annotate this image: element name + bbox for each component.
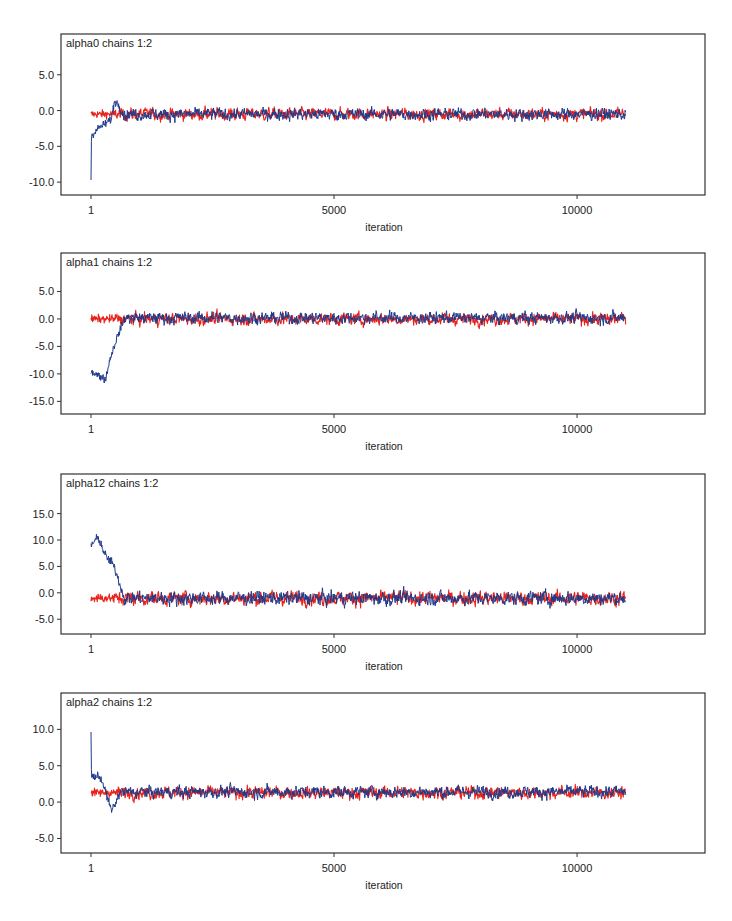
y-tick-label: 0.0 (39, 105, 54, 117)
x-tick-label: 1 (88, 862, 94, 874)
x-axis: 1500010000 (88, 853, 592, 874)
panel-title: alpha0 chains 1:2 (66, 37, 152, 49)
panel-title: alpha2 chains 1:2 (66, 696, 152, 708)
panel-alpha2: 10.05.00.0-5.0 1500010000 alpha2 chains … (33, 693, 705, 891)
x-tick-label: 1 (88, 204, 94, 216)
x-tick-label: 10000 (562, 204, 593, 216)
y-tick-label: 10.0 (33, 534, 54, 546)
panel-title: alpha12 chains 1:2 (66, 477, 158, 489)
x-tick-label: 10000 (562, 862, 593, 874)
x-axis-label: iteration (365, 221, 403, 233)
y-tick-label: -10.0 (29, 368, 54, 380)
y-tick-label: 0.0 (39, 796, 54, 808)
y-tick-label: -10.0 (29, 176, 54, 188)
y-tick-label: -5.0 (35, 140, 54, 152)
y-tick-label: -5.0 (35, 613, 54, 625)
y-tick-label: -15.0 (29, 395, 54, 407)
x-tick-label: 5000 (322, 643, 346, 655)
y-tick-label: 10.0 (33, 723, 54, 735)
plot-frame (61, 253, 705, 414)
x-axis: 1500010000 (88, 634, 592, 655)
y-axis: 5.00.0-5.0-10.0-15.0 (29, 285, 61, 407)
y-tick-label: -5.0 (35, 340, 54, 352)
x-axis-label: iteration (365, 879, 403, 891)
panel-title: alpha1 chains 1:2 (66, 256, 152, 268)
x-tick-label: 10000 (562, 643, 593, 655)
x-tick-label: 5000 (322, 204, 346, 216)
plot-frame (61, 693, 705, 853)
panel-alpha1: 5.00.0-5.0-10.0-15.0 1500010000 alpha1 c… (29, 253, 705, 452)
x-tick-label: 5000 (322, 862, 346, 874)
trace-plots-figure: 5.00.0-5.0-10.0 1500010000 alpha0 chains… (0, 0, 732, 921)
x-axis: 1500010000 (88, 414, 592, 435)
trace-plots-svg: 5.00.0-5.0-10.0 1500010000 alpha0 chains… (0, 0, 732, 921)
panel-alpha0: 5.00.0-5.0-10.0 1500010000 alpha0 chains… (29, 34, 705, 233)
x-axis-label: iteration (365, 440, 403, 452)
y-tick-label: 5.0 (39, 285, 54, 297)
y-axis: 15.010.05.00.0-5.0 (33, 508, 61, 626)
y-axis: 10.05.00.0-5.0 (33, 723, 61, 844)
y-tick-label: 0.0 (39, 313, 54, 325)
y-tick-label: 5.0 (39, 760, 54, 772)
y-tick-label: 5.0 (39, 560, 54, 572)
y-tick-label: -5.0 (35, 832, 54, 844)
x-tick-label: 1 (88, 643, 94, 655)
x-tick-label: 10000 (562, 423, 593, 435)
x-tick-label: 5000 (322, 423, 346, 435)
y-tick-label: 0.0 (39, 587, 54, 599)
x-axis-label: iteration (365, 660, 403, 672)
x-tick-label: 1 (88, 423, 94, 435)
y-axis: 5.00.0-5.0-10.0 (29, 69, 61, 188)
panel-alpha12: 15.010.05.00.0-5.0 1500010000 alpha12 ch… (33, 474, 705, 672)
plot-frame (61, 474, 705, 634)
x-axis: 1500010000 (88, 195, 592, 216)
y-tick-label: 5.0 (39, 69, 54, 81)
y-tick-label: 15.0 (33, 508, 54, 520)
